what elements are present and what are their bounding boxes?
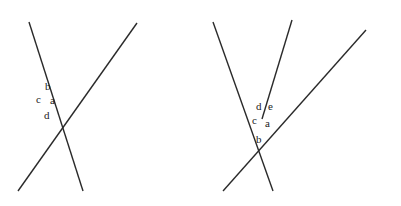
left-label-b: b — [45, 80, 51, 92]
left-figure: b c a d — [18, 22, 137, 191]
right-line-2 — [262, 20, 292, 119]
right-label-a: a — [265, 117, 270, 129]
left-line-1 — [29, 22, 83, 191]
left-label-d: d — [44, 109, 50, 121]
left-label-c: c — [36, 93, 41, 105]
right-label-c: c — [252, 114, 257, 126]
right-figure: d e c a b — [213, 20, 366, 191]
right-label-e: e — [268, 100, 273, 112]
right-label-d: d — [256, 100, 262, 112]
left-line-2 — [18, 23, 137, 191]
left-label-a: a — [50, 94, 55, 106]
right-label-b: b — [256, 133, 262, 145]
right-line-1 — [213, 22, 273, 191]
diagram-canvas: b c a d d e c a b — [0, 0, 401, 206]
